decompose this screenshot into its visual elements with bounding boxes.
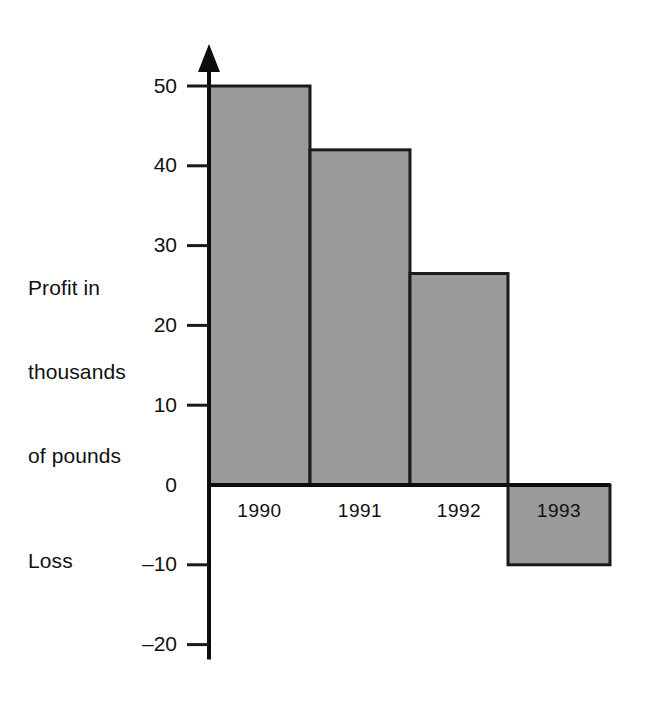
bar-1993 xyxy=(508,485,610,565)
y-tick-label-40: 40 xyxy=(154,153,177,176)
bars-group xyxy=(209,86,610,565)
bar-1990 xyxy=(209,86,310,485)
y-axis-arrow-icon xyxy=(198,44,220,72)
category-label-1990: 1990 xyxy=(237,500,281,521)
y-tick-label-0: 0 xyxy=(165,473,177,496)
y-tick-label-–10: –10 xyxy=(142,552,177,575)
category-label-1993: 1993 xyxy=(537,500,581,521)
bar-1992 xyxy=(410,274,508,485)
bar-1991 xyxy=(310,150,410,485)
bar-chart-plot: 50403020100–10–20 1990199119921993 xyxy=(0,0,652,722)
category-label-1992: 1992 xyxy=(437,500,481,521)
y-tick-label-50: 50 xyxy=(154,74,177,97)
category-label-1991: 1991 xyxy=(338,500,382,521)
y-tick-label-30: 30 xyxy=(154,233,177,256)
y-axis-ticks-group: 50403020100–10–20 xyxy=(142,74,209,656)
chart-canvas: Profit in thousands of pounds Loss 50403… xyxy=(0,0,652,722)
y-tick-label-–20: –20 xyxy=(142,632,177,655)
y-tick-label-20: 20 xyxy=(154,313,177,336)
y-tick-label-10: 10 xyxy=(154,393,177,416)
